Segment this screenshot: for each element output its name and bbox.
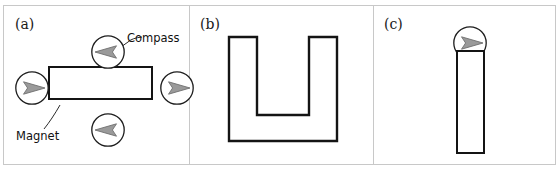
panel-a: (a) Compass Magnet	[3, 5, 189, 165]
bar-magnet-horizontal	[48, 66, 153, 100]
panel-b: (b)	[190, 5, 373, 165]
compass-above-magnet	[90, 34, 126, 70]
magnet-compass-figure: (a) Compass Magnet	[0, 0, 560, 170]
panel-a-label: (a)	[15, 17, 34, 31]
magnet-annotation-label: Magnet	[16, 131, 59, 143]
panel-c: (c)	[374, 5, 556, 165]
magnet-leader-line	[43, 104, 61, 130]
compass-annotation-label: Compass	[127, 33, 180, 45]
compass-below-magnet	[90, 112, 126, 148]
bar-magnet-vertical	[456, 50, 485, 154]
compass-left-of-magnet	[14, 70, 50, 106]
panel-c-label: (c)	[384, 17, 403, 31]
horseshoe-magnet	[227, 35, 337, 140]
panel-b-label: (b)	[200, 17, 220, 31]
